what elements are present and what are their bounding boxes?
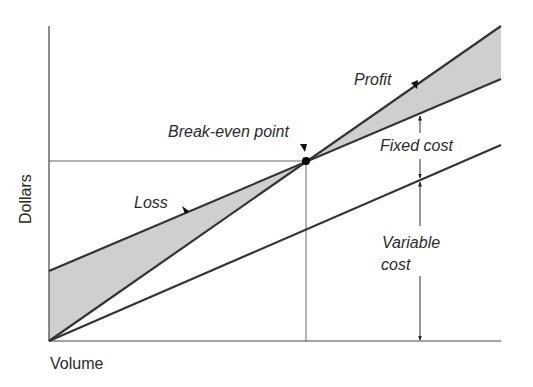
break-even-pointer-icon xyxy=(300,144,307,152)
variable-cost-label-line1: Variable xyxy=(382,234,440,252)
break-even-point xyxy=(302,157,310,165)
profit-label: Profit xyxy=(354,71,391,89)
variable-cost-label-line2: cost xyxy=(381,256,410,274)
break-even-chart xyxy=(0,0,533,387)
fixed-cost-label: Fixed cost xyxy=(380,137,453,155)
x-axis-label: Volume xyxy=(50,355,103,373)
y-axis-label: Dollars xyxy=(17,174,35,224)
break-even-label: Break-even point xyxy=(168,123,289,141)
revenue-line xyxy=(49,26,501,341)
loss-label: Loss xyxy=(134,194,168,212)
